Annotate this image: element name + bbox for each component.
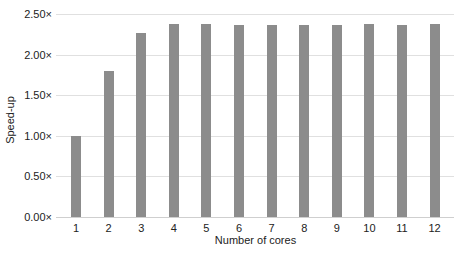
x-tick-label: 9	[327, 222, 347, 234]
x-tick-label: 11	[392, 222, 412, 234]
speedup-bar-chart: Speed-up Number of cores 0.00×0.50×1.00×…	[0, 0, 459, 253]
x-tick-label: 3	[131, 222, 151, 234]
y-tick-label: 2.50×	[2, 8, 52, 20]
x-tick-label: 6	[229, 222, 249, 234]
bar-cores-5	[201, 24, 211, 217]
bar-cores-11	[397, 25, 407, 217]
x-tick-label: 8	[294, 222, 314, 234]
y-tick-label: 0.00×	[2, 211, 52, 223]
x-tick-label: 2	[99, 222, 119, 234]
gridline	[56, 176, 454, 177]
gridline	[56, 217, 454, 218]
y-tick-label: 2.00×	[2, 49, 52, 61]
x-tick-label: 5	[196, 222, 216, 234]
bar-cores-3	[136, 33, 146, 217]
bar-cores-10	[364, 24, 374, 217]
bar-cores-4	[169, 24, 179, 217]
y-tick-label: 0.50×	[2, 170, 52, 182]
bar-cores-12	[430, 24, 440, 217]
y-tick-label: 1.00×	[2, 130, 52, 142]
x-tick-label: 7	[262, 222, 282, 234]
gridline	[56, 95, 454, 96]
gridline	[56, 55, 454, 56]
x-tick-label: 4	[164, 222, 184, 234]
bar-cores-7	[267, 25, 277, 217]
gridline	[56, 136, 454, 137]
bar-cores-8	[299, 25, 309, 217]
x-axis-label: Number of cores	[0, 234, 459, 246]
bar-cores-6	[234, 25, 244, 217]
bar-cores-1	[71, 136, 81, 217]
gridline	[56, 14, 454, 15]
bar-cores-9	[332, 25, 342, 217]
x-tick-label: 10	[359, 222, 379, 234]
bar-cores-2	[104, 71, 114, 217]
x-tick-label: 12	[425, 222, 445, 234]
y-tick-label: 1.50×	[2, 89, 52, 101]
x-tick-label: 1	[66, 222, 86, 234]
